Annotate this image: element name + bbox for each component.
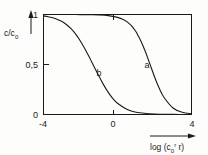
x-axis-title-prefix: log (c xyxy=(150,142,172,152)
xtick-label-0: 0 xyxy=(110,119,115,129)
plot-frame xyxy=(44,15,192,115)
x-axis-label-group: log (c0r r) xyxy=(150,133,196,153)
ytick-label-0: 0 xyxy=(33,110,38,120)
y-axis-title-main: c/c xyxy=(4,28,16,38)
y-axis-label-group: c/c0 xyxy=(4,10,34,40)
right-arrow-icon xyxy=(188,133,196,138)
xtick-label-4: 4 xyxy=(189,119,194,129)
ytick-label-0-5: 0,5 xyxy=(25,60,38,70)
y-axis-title-sub: 0 xyxy=(15,34,19,40)
x-axis-title-suffix: r) xyxy=(176,142,184,152)
curve-label-a: a xyxy=(145,60,150,70)
ytick-label-1: 1 xyxy=(33,10,38,20)
x-axis-title: log (c0r r) xyxy=(150,142,184,154)
curve-a xyxy=(44,14,192,113)
y-axis-title: c/c0 xyxy=(4,28,19,40)
xtick-label-minus4: -4 xyxy=(39,119,47,129)
plot-svg: 1 0,5 0 -4 0 4 c/c0 log (c0r r) a b xyxy=(0,0,208,155)
curve-b xyxy=(44,16,192,115)
figure-container: 1 0,5 0 -4 0 4 c/c0 log (c0r r) a b xyxy=(0,0,208,155)
x-axis-title-sub: 0 xyxy=(171,148,175,154)
curve-label-b: b xyxy=(96,68,101,78)
